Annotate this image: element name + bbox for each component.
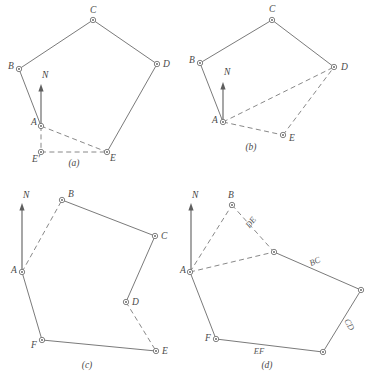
station-label-c-F: F	[30, 340, 37, 350]
station-label-b-A: A	[211, 115, 218, 125]
station-marker-inner	[155, 350, 157, 352]
solid-edge-D-E	[107, 64, 157, 152]
dashed-edge-A-B	[22, 200, 62, 272]
dashed-edge-A-D	[223, 67, 334, 122]
station-a-C[interactable]	[90, 17, 95, 22]
station-marker-inner	[154, 235, 156, 237]
station-label-c-A: A	[10, 265, 17, 275]
side-label-d-DE: DE	[243, 214, 259, 231]
station-d-C[interactable]	[358, 287, 363, 292]
station-label-c-E: E	[161, 346, 168, 356]
solid-edge-A-B	[200, 63, 223, 122]
solid-edge-B-C	[200, 20, 272, 63]
station-label-b-C: C	[269, 4, 276, 14]
panel-d: NABFDEBCCDEF(d)	[179, 190, 364, 371]
station-c-F[interactable]	[39, 337, 44, 342]
station-b-D[interactable]	[331, 64, 336, 69]
panel-a: NABCDEE'(a)	[8, 5, 170, 169]
station-c-A[interactable]	[19, 269, 24, 274]
solid-edges-b	[200, 20, 334, 122]
station-marker-inner	[40, 125, 42, 127]
solid-edge-F-E	[42, 340, 156, 351]
station-c-D[interactable]	[123, 299, 128, 304]
station-label-d-B: B	[228, 190, 234, 200]
dashed-edges-d	[190, 205, 274, 272]
dashed-edge-B-Bp	[232, 205, 274, 252]
north-label-c: N	[22, 190, 30, 200]
north-arrow-head-c	[19, 203, 24, 211]
side-label-d-EF: EF	[253, 346, 265, 356]
figure-canvas: NABCDEE'(a)NABCDE(b)NABCDEF(c)NABFDEBCCD…	[0, 0, 375, 382]
station-marker-inner	[215, 338, 217, 340]
station-label-a-Ep: E'	[31, 154, 41, 164]
station-marker-inner	[333, 66, 335, 68]
station-c-E[interactable]	[153, 348, 158, 353]
dashed-edge-D-E	[126, 302, 156, 351]
station-d-A[interactable]	[187, 269, 192, 274]
station-d-F[interactable]	[213, 336, 218, 341]
station-label-a-C: C	[90, 5, 97, 15]
station-label-c-D: D	[131, 297, 139, 307]
panel-caption-c: (c)	[82, 360, 93, 371]
station-c-B[interactable]	[59, 197, 64, 202]
solid-edge-A-B	[19, 69, 41, 126]
side-label-d-CD: CD	[342, 317, 357, 333]
station-marker-inner	[360, 289, 362, 291]
station-marker-inner	[21, 271, 23, 273]
station-b-A[interactable]	[220, 119, 225, 124]
solid-edge-A-F	[22, 272, 42, 340]
panels-layer: NABCDEE'(a)NABCDE(b)NABCDEF(c)NABFDEBCCD…	[8, 4, 364, 371]
station-marker-inner	[92, 19, 94, 21]
station-marker-inner	[18, 68, 20, 70]
station-marker-inner	[156, 63, 158, 65]
station-marker-inner	[106, 151, 108, 153]
dashed-edges-b	[223, 67, 334, 135]
station-d-B[interactable]	[229, 202, 234, 207]
solid-edge-C-D	[272, 20, 334, 67]
panel-caption-b: (b)	[245, 142, 256, 153]
panel-caption-a: (a)	[68, 158, 79, 169]
north-label-d: N	[191, 190, 199, 200]
station-b-C[interactable]	[269, 17, 274, 22]
station-marker-inner	[61, 199, 63, 201]
station-d-Bp[interactable]	[271, 249, 276, 254]
north-arrow-head-a	[38, 84, 43, 92]
station-a-A[interactable]	[38, 123, 43, 128]
station-b-B[interactable]	[197, 60, 202, 65]
solid-edge-D-F	[216, 339, 323, 352]
station-label-c-C: C	[161, 231, 168, 241]
station-label-a-B: B	[8, 61, 14, 71]
station-marker-inner	[41, 339, 43, 341]
station-marker-inner	[282, 134, 284, 136]
station-marker-inner	[125, 301, 127, 303]
dashed-edges-a	[41, 126, 107, 152]
north-label-a: N	[41, 70, 49, 80]
solid-edge-B-C	[19, 20, 93, 69]
solid-edge-C-D	[126, 236, 155, 302]
station-label-b-B: B	[189, 55, 195, 65]
station-marker-inner	[189, 271, 191, 273]
station-label-a-E: E	[109, 153, 116, 163]
station-marker-inner	[271, 19, 273, 21]
panel-caption-d: (d)	[261, 360, 272, 371]
station-marker-inner	[273, 251, 275, 253]
station-label-a-A: A	[30, 117, 37, 127]
station-a-E[interactable]	[104, 149, 109, 154]
panel-c: NABCDEF(c)	[10, 189, 168, 371]
station-a-B[interactable]	[16, 66, 21, 71]
station-marker-inner	[322, 351, 324, 353]
north-arrow-head-d	[188, 203, 193, 211]
station-a-D[interactable]	[154, 61, 159, 66]
station-label-b-D: D	[340, 62, 348, 72]
dashed-edge-A-B	[190, 205, 232, 272]
dashed-edges-c	[22, 200, 156, 351]
station-b-E[interactable]	[280, 132, 285, 137]
station-marker-inner	[222, 121, 224, 123]
solid-edge-F-A	[190, 272, 216, 339]
station-label-a-D: D	[162, 59, 170, 69]
solid-edge-C-D	[93, 20, 157, 64]
station-c-C[interactable]	[152, 233, 157, 238]
station-d-D[interactable]	[320, 349, 325, 354]
solid-edge-B-C	[62, 200, 155, 236]
station-marker-inner	[199, 62, 201, 64]
